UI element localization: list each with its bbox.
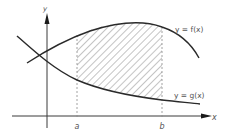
b-label: b [160,122,165,131]
y-axis [45,13,50,128]
y-axis-arrow-icon [45,13,50,24]
shaded-region [77,10,162,110]
x-axis [12,114,212,119]
f-curve-label: y = f(x) [175,25,203,34]
a-label: a [75,122,80,131]
g-curve-label: y = g(x) [174,91,205,100]
area-between-curves-diagram: y x y = f(x) y = g(x) a b [0,0,226,134]
x-axis-label: x [211,113,217,122]
x-axis-arrow-icon [201,114,212,119]
y-axis-label: y [42,5,48,13]
